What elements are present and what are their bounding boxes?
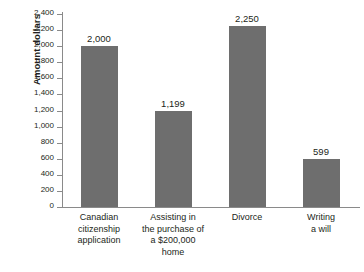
y-tick-mark [57,175,62,176]
y-tick-label: 1,600 [34,72,54,81]
bar[interactable] [155,111,192,207]
y-tick-mark [57,78,62,79]
bar[interactable] [229,26,266,207]
category-label-line: a will [276,224,364,236]
y-tick-mark [57,30,62,31]
bar-value-label: 2,250 [235,13,259,24]
plot-area: 02004006008001,0001,2001,4001,6001,8002,… [62,14,358,207]
y-tick-label: 1,800 [34,56,54,65]
category-label-line: the purchase of [128,224,218,236]
bar[interactable] [81,46,118,207]
y-tick-mark [57,159,62,160]
y-tick-label: 1,200 [34,105,54,114]
category-label-line: a $200,000 [128,235,218,247]
y-tick-mark [57,207,62,208]
y-tick-label: 2,000 [34,40,54,49]
y-tick-mark [57,14,62,15]
y-tick-mark [57,127,62,128]
bar-group[interactable]: 2,000 [81,46,118,207]
bar-value-label: 1,199 [161,98,185,109]
y-tick-mark [57,191,62,192]
bar-value-label: 2,000 [87,33,111,44]
x-axis-line [62,207,360,208]
y-tick-mark [57,62,62,63]
y-tick-mark [57,46,62,47]
bar-group[interactable]: 1,199 [155,111,192,207]
y-tick-label: 200 [41,185,54,194]
y-tick-label: 0 [50,201,54,210]
bar-group[interactable]: 2,250 [229,26,266,207]
y-tick-mark [57,143,62,144]
y-tick-label: 1,400 [34,88,54,97]
y-tick-mark [57,111,62,112]
y-tick-label: 2,200 [34,24,54,33]
bar-group[interactable]: 599 [303,159,340,207]
category-label-line: Writing [276,212,364,224]
y-tick-label: 600 [41,153,54,162]
bar-chart: Amount dollars 02004006008001,0001,2001,… [0,0,364,272]
bar-value-label: 599 [313,146,329,157]
y-tick-label: 400 [41,169,54,178]
y-tick-label: 2,400 [34,8,54,17]
category-label-line: home [128,247,218,259]
category-label: Writinga will [276,212,364,235]
bar[interactable] [303,159,340,207]
y-tick-label: 1,000 [34,121,54,130]
y-tick-mark [57,94,62,95]
y-tick-label: 800 [41,137,54,146]
